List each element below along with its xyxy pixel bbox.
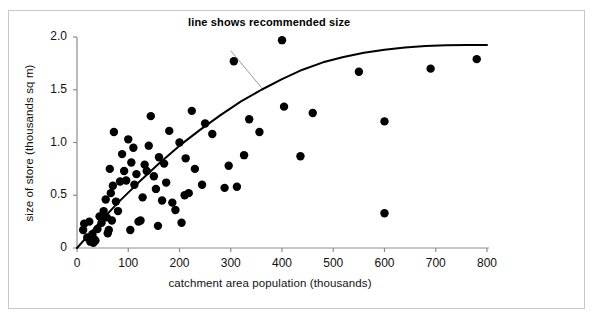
data-point <box>201 119 209 127</box>
data-point <box>122 176 130 184</box>
data-point <box>380 209 388 217</box>
data-point <box>188 107 196 115</box>
data-point <box>138 193 146 201</box>
data-point <box>136 216 144 224</box>
data-point <box>245 115 253 123</box>
data-point <box>225 162 233 170</box>
data-point <box>158 196 166 204</box>
data-point <box>145 141 153 149</box>
data-point <box>278 36 286 44</box>
data-point <box>198 181 206 189</box>
data-point <box>177 218 185 226</box>
data-point <box>124 135 132 143</box>
y-tick-label: 0.5 <box>33 187 67 201</box>
data-point <box>168 198 176 206</box>
x-tick-label: 600 <box>365 256 405 270</box>
data-point <box>255 128 263 136</box>
figure-container: line shows recommended size size of stor… <box>0 0 595 332</box>
data-point <box>85 217 93 225</box>
x-tick-label: 300 <box>211 256 251 270</box>
data-point <box>220 184 228 192</box>
data-point <box>106 165 114 173</box>
data-point <box>185 189 193 197</box>
data-point <box>107 189 115 197</box>
data-point <box>309 109 317 117</box>
y-tick-label: 1.5 <box>33 82 67 96</box>
data-point <box>240 151 248 159</box>
data-point <box>280 102 288 110</box>
data-point <box>162 178 170 186</box>
data-point <box>296 152 304 160</box>
data-point <box>114 207 122 215</box>
data-point <box>112 197 120 205</box>
data-point <box>108 216 116 224</box>
y-tick-label: 1.0 <box>33 135 67 149</box>
annotation-label: line shows recommended size <box>188 16 350 28</box>
data-point <box>109 182 117 190</box>
data-point <box>473 55 481 63</box>
data-point <box>208 130 216 138</box>
data-point <box>160 159 168 167</box>
x-tick-label: 400 <box>262 256 302 270</box>
data-point <box>118 150 126 158</box>
data-points <box>79 36 481 247</box>
data-point <box>127 158 135 166</box>
data-point <box>171 206 179 214</box>
x-tick-label: 200 <box>160 256 200 270</box>
data-point <box>129 144 137 152</box>
data-point <box>191 165 199 173</box>
data-point <box>105 226 113 234</box>
data-point <box>152 185 160 193</box>
data-point <box>233 183 241 191</box>
x-tick-label: 100 <box>108 256 148 270</box>
data-point <box>380 117 388 125</box>
x-tick-label: 0 <box>57 256 97 270</box>
data-point <box>147 112 155 120</box>
x-tick-label: 700 <box>416 256 456 270</box>
data-point <box>130 181 138 189</box>
data-point <box>175 138 183 146</box>
data-point <box>230 57 238 65</box>
data-point <box>165 127 173 135</box>
x-tick-label: 500 <box>313 256 353 270</box>
annotation-leader-line <box>231 51 262 88</box>
y-tick-label: 0 <box>33 240 67 254</box>
data-point <box>126 226 134 234</box>
data-point <box>181 154 189 162</box>
data-point <box>426 64 434 72</box>
data-point <box>120 167 128 175</box>
y-tick-label: 2.0 <box>33 29 67 43</box>
data-point <box>150 172 158 180</box>
data-point <box>154 222 162 230</box>
x-tick-label: 800 <box>467 256 507 270</box>
x-axis-title: catchment area population (thousands) <box>140 277 400 289</box>
data-point <box>110 128 118 136</box>
data-point <box>132 170 140 178</box>
data-point <box>143 167 151 175</box>
data-point <box>91 236 99 244</box>
data-point <box>355 68 363 76</box>
